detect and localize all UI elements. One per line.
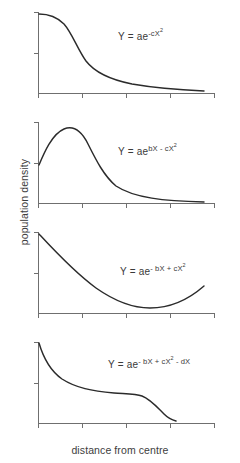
panel-4-equation-exponent: - bX + cX xyxy=(138,357,170,366)
panel-2-equation: Y = aebX - cX2 xyxy=(118,145,177,157)
panel-1-equation-exponent: -cX xyxy=(148,29,160,38)
panel-4-curve xyxy=(39,343,176,421)
population-density-figure: population density Y = ae-cX2 xyxy=(0,0,240,463)
panel-3-equation-lead: Y = ae xyxy=(120,266,150,277)
panel-1 xyxy=(30,8,230,104)
panel-2 xyxy=(30,118,230,214)
panel-3-equation-power: 2 xyxy=(183,262,186,268)
panel-1-equation-power: 2 xyxy=(160,27,163,33)
panel-1-equation: Y = ae-cX2 xyxy=(118,30,163,42)
panel-4-equation-lead: Y = ae xyxy=(108,359,138,370)
panel-4-equation: Y = ae- bX + cX2 - dX xyxy=(108,358,190,370)
panel-2-curve xyxy=(39,128,204,202)
panel-1-curve xyxy=(39,14,204,91)
panel-2-equation-exponent: bX - cX xyxy=(148,144,174,153)
panel-4 xyxy=(30,338,230,434)
panel-2-equation-power: 2 xyxy=(174,142,177,148)
y-axis-label: population density xyxy=(18,112,30,292)
panel-1-equation-lead: Y = ae xyxy=(118,31,148,42)
x-axis-label: distance from centre xyxy=(0,444,240,456)
panel-4-equation-tail: - dX xyxy=(174,357,191,366)
panel-3-equation: Y = ae- bX + cX2 xyxy=(120,265,186,277)
panel-3-equation-exponent: - bX + cX xyxy=(150,264,182,273)
panel-2-equation-lead: Y = ae xyxy=(118,146,148,157)
